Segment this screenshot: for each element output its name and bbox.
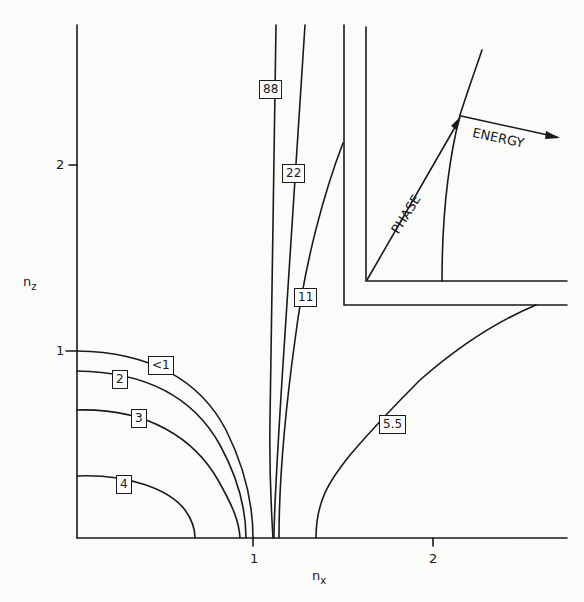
contour-88 [270,25,276,538]
y-axis-label: nz [23,275,37,292]
contour-label-3: 3 [131,409,147,428]
x-tick-label-1: 1 [250,552,258,565]
contour-label-22: 22 [282,164,305,183]
x-axis-label-sub: x [320,575,326,586]
inset-inner-frame [366,27,567,281]
x-axis-label-main: n [312,568,320,583]
contour-5-5 [316,305,536,538]
contour-lt1 [77,351,253,538]
contour-label-lt1: <1 [148,356,174,375]
contour-label-4: 4 [116,475,132,494]
contour-label-88: 88 [259,80,282,99]
energy-arrowhead-icon [545,131,560,139]
contour-label-2: 2 [112,370,128,389]
contour-label-11: 11 [294,288,317,307]
x-axis-label: nx [312,569,326,586]
y-axis-label-sub: z [31,281,36,292]
contour-2 [77,371,246,538]
y-tick-label-1: 1 [56,344,64,357]
plot-lines [0,0,584,602]
inset-surface-curve [442,50,482,281]
contour-label-5-5: 5.5 [379,415,406,434]
y-tick-label-2: 2 [56,158,64,171]
contour-4 [77,476,195,538]
contour-22 [274,25,305,538]
x-tick-label-2: 2 [429,552,437,565]
y-axis-label-main: n [23,274,31,289]
contour-3 [77,410,240,538]
phase-arrowhead-icon [451,116,461,130]
contour-figure: 2 1 1 2 nz nx <1 2 3 4 88 22 11 5.5 PHAS… [0,0,584,602]
